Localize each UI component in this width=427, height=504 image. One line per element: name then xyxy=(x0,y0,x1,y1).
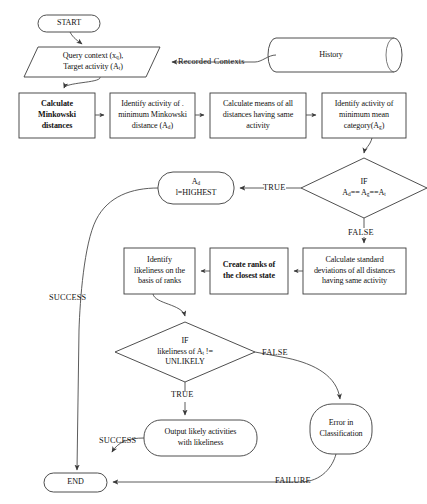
edge-label-true-unlikely: TRUE xyxy=(171,390,193,399)
node-decision-unlikely xyxy=(115,322,255,382)
edge-label-success-highest: SUCCESS xyxy=(49,293,86,302)
edge-label-true-equal: TRUE xyxy=(263,183,285,192)
flowchart-svg xyxy=(0,0,427,504)
node-end xyxy=(44,473,107,492)
edge-label-success-output: SUCCESS xyxy=(99,436,136,445)
edge-start-to-query xyxy=(70,32,82,44)
edge-label-failure-error: FAILURE xyxy=(275,476,311,485)
node-identify-min-mean xyxy=(322,93,406,138)
node-start xyxy=(38,15,100,32)
node-identify-min-minkowski xyxy=(110,93,195,138)
node-output-likely xyxy=(144,420,257,456)
node-error-classification xyxy=(310,404,372,454)
edge-label-false-unlikely: FALSE xyxy=(262,348,288,357)
node-create-ranks xyxy=(210,248,288,294)
node-calculate-std xyxy=(303,248,406,294)
edge-highest-success-to-end xyxy=(77,188,158,470)
node-calculate-minkowski xyxy=(19,93,95,138)
edge-likeliness-to-decision xyxy=(153,294,185,316)
node-history xyxy=(268,38,402,72)
node-calculate-means xyxy=(210,93,306,138)
edge-label-recorded-contexts: Recorded Contexts xyxy=(178,57,245,66)
edge-label-false-equal: FALSE xyxy=(348,228,374,237)
node-query-input xyxy=(24,47,160,77)
edge-identify-mean-to-decision xyxy=(364,138,372,153)
node-highest xyxy=(158,172,234,204)
edge-query-to-calculate xyxy=(64,77,100,88)
edge-decision-false-to-error xyxy=(255,352,340,399)
flowchart-canvas: START Query context (xq), Target activit… xyxy=(0,0,427,504)
node-identify-likeliness xyxy=(124,248,195,294)
node-decision-equal xyxy=(301,158,427,218)
